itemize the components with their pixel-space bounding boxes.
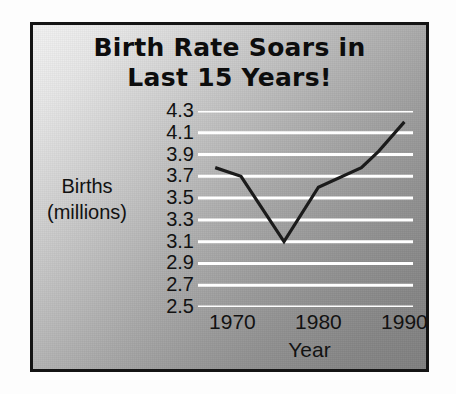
plot-area (198, 111, 413, 307)
y-tick-label: 2.9 (137, 252, 194, 272)
chart-title: Birth Rate Soars in Last 15 Years! (33, 33, 426, 93)
x-tick-label: 1990 (374, 310, 429, 334)
y-tick-label: 3.1 (137, 231, 194, 251)
y-tick-label: 3.9 (137, 144, 194, 164)
y-tick-label: 4.1 (137, 122, 194, 142)
data-series-line (215, 122, 404, 242)
y-tick-label: 2.7 (137, 274, 194, 294)
y-axis-tick-labels: 4.34.13.93.73.53.33.12.92.72.5 (137, 97, 194, 317)
y-axis-title: Births (millions) (35, 173, 139, 225)
plot-svg (198, 111, 413, 307)
chart-plate: Birth Rate Soars in Last 15 Years! Birth… (30, 22, 429, 372)
y-tick-label: 3.5 (137, 187, 194, 207)
x-axis-tick-labels: 197019801990 (193, 310, 426, 336)
y-tick-label: 2.5 (137, 296, 194, 316)
y-axis-title-line-1: Births (35, 173, 139, 199)
chart-title-line-2: Last 15 Years! (33, 63, 426, 93)
y-tick-label: 3.3 (137, 209, 194, 229)
y-tick-label: 3.7 (137, 165, 194, 185)
x-tick-label: 1980 (288, 310, 348, 334)
y-axis-title-line-2: (millions) (35, 199, 139, 225)
x-tick-label: 1970 (202, 310, 262, 334)
chart-figure: Birth Rate Soars in Last 15 Years! Birth… (0, 0, 456, 394)
y-tick-label: 4.3 (137, 100, 194, 120)
chart-title-line-1: Birth Rate Soars in (33, 33, 426, 63)
x-axis-title: Year (193, 338, 426, 362)
